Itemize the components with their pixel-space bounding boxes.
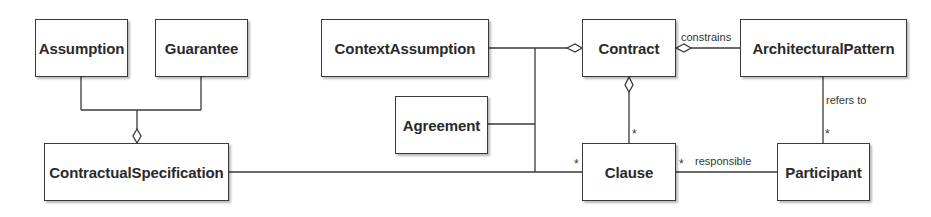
- class-name: Guarantee: [165, 40, 238, 57]
- class-architectural-pattern[interactable]: ArchitecturalPattern: [740, 19, 907, 77]
- multiplicity-clause-participant: *: [679, 157, 684, 171]
- class-name: Clause: [605, 164, 654, 181]
- class-agreement[interactable]: Agreement: [395, 96, 488, 154]
- aggregation-diamond-contract-bottom: [625, 77, 633, 92]
- class-contract[interactable]: Contract: [582, 19, 676, 77]
- aggregation-diamond-contract-left: [567, 44, 582, 52]
- class-name: ArchitecturalPattern: [752, 40, 894, 57]
- class-name: ContextAssumption: [335, 40, 476, 57]
- association-label-constrains: constrains: [681, 31, 731, 43]
- class-context-assumption[interactable]: ContextAssumption: [321, 19, 489, 77]
- class-name: ContractualSpecification: [49, 164, 223, 181]
- uml-diagram-canvas: Assumption Guarantee ContractualSpecific…: [0, 0, 931, 217]
- class-participant[interactable]: Participant: [777, 143, 870, 201]
- association-label-responsible: responsible: [695, 155, 751, 167]
- association-label-refers-to: refers to: [826, 94, 866, 106]
- class-clause[interactable]: Clause: [582, 143, 676, 201]
- aggregation-diamond-contract-right: [676, 44, 691, 52]
- multiplicity-pattern-participant: *: [825, 127, 830, 141]
- class-guarantee[interactable]: Guarantee: [155, 19, 248, 77]
- class-name: Assumption: [39, 40, 125, 57]
- class-name: Contract: [599, 40, 660, 57]
- class-assumption[interactable]: Assumption: [35, 19, 128, 77]
- class-name: Participant: [785, 164, 861, 181]
- aggregation-diamond-spec: [133, 129, 141, 143]
- class-name: Agreement: [403, 117, 480, 134]
- multiplicity-spec-clause: *: [574, 157, 579, 171]
- class-contractual-specification[interactable]: ContractualSpecification: [44, 143, 229, 201]
- multiplicity-contract-clause: *: [632, 127, 637, 141]
